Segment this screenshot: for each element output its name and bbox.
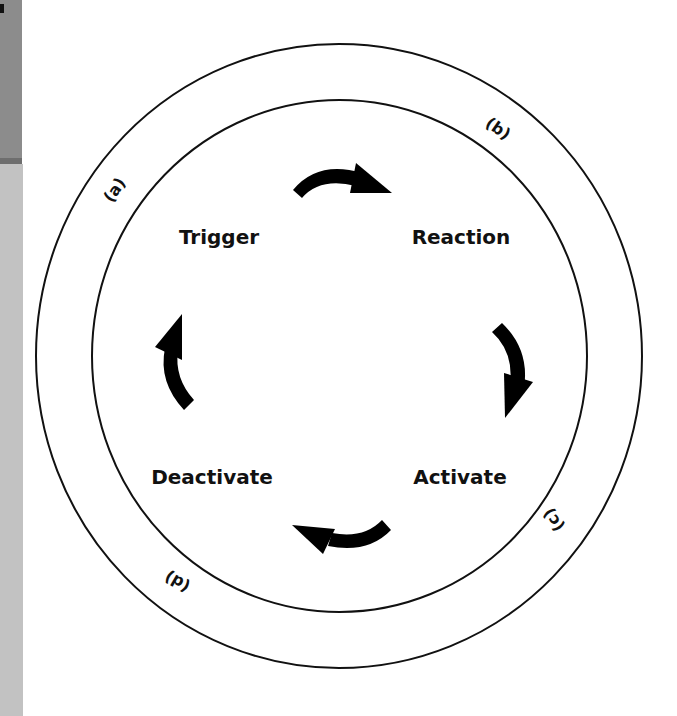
stage-label-activate: Activate <box>413 465 506 489</box>
arrow-deactivate-to-trigger-icon <box>155 314 194 410</box>
stage-label-deactivate: Deactivate <box>151 465 273 489</box>
cycle-diagram: (a) (b) (c) (d) Trigger Reaction Activat… <box>0 0 677 716</box>
stage-label-reaction: Reaction <box>412 225 511 249</box>
arrow-trigger-to-reaction-icon <box>293 163 392 198</box>
stage-label-trigger: Trigger <box>179 225 259 249</box>
ring-label-d: (d) <box>161 567 193 596</box>
outer-ring <box>36 44 642 668</box>
arrow-activate-to-deactivate-icon <box>292 520 391 554</box>
ring-label-a: (a) <box>99 174 129 206</box>
arrow-reaction-to-activate-icon <box>492 323 533 418</box>
ring-label-c: (c) <box>539 505 568 536</box>
ring-label-b: (b) <box>482 113 514 144</box>
